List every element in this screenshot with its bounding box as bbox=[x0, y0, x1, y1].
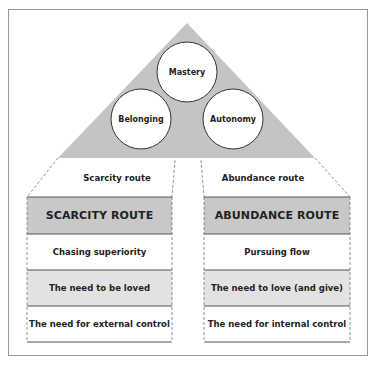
abundance-row: The need to love (and give) bbox=[204, 270, 350, 306]
scarcity-row: The need for external control bbox=[27, 306, 172, 342]
mastery-label: Mastery bbox=[157, 62, 217, 82]
belonging-label: Belonging bbox=[111, 109, 171, 129]
abundance-row: Pursuing flow bbox=[204, 234, 350, 270]
abundance-header: ABUNDANCE ROUTE bbox=[204, 197, 350, 234]
autonomy-label: Autonomy bbox=[203, 109, 263, 129]
scarcity-dashed-left bbox=[27, 158, 58, 197]
abundance-row: The need for internal control bbox=[204, 306, 350, 342]
scarcity-header: SCARCITY ROUTE bbox=[27, 197, 172, 234]
abundance-route-label: Abundance route bbox=[203, 168, 323, 188]
scarcity-row: The need to be loved bbox=[27, 270, 172, 306]
scarcity-row: Chasing superiority bbox=[27, 234, 172, 270]
scarcity-route-label: Scarcity route bbox=[60, 168, 174, 188]
